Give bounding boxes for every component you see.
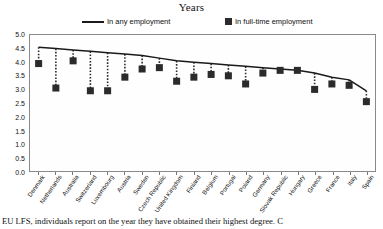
series-marker-full-time-employment xyxy=(104,87,111,94)
legend-label-full-time-employment: In full-time employment xyxy=(235,18,313,26)
series-marker-full-time-employment xyxy=(328,80,335,87)
y-axis-tick-label: 3.0 xyxy=(15,86,25,93)
y-axis-tick-label: 3.5 xyxy=(15,72,25,79)
y-axis-tick-label: 0.0 xyxy=(15,169,25,176)
series-marker-full-time-employment xyxy=(208,71,215,78)
series-marker-full-time-employment xyxy=(156,64,163,71)
legend-item-full-time-employment: In full-time employment xyxy=(225,16,313,27)
series-marker-full-time-employment xyxy=(346,82,353,89)
series-marker-full-time-employment xyxy=(242,80,249,87)
series-marker-full-time-employment xyxy=(190,74,197,81)
legend-label-any-employment: In any employment xyxy=(107,18,170,26)
chart-figure: Years In any employment In full-time emp… xyxy=(0,0,383,229)
x-axis-labels: DenmarkNetherlandsAustraliaSwitzerlandLu… xyxy=(29,174,376,214)
x-axis-category-label: Spain xyxy=(361,174,375,191)
y-axis-tick-label: 1.0 xyxy=(15,141,25,148)
series-marker-full-time-employment xyxy=(139,66,146,73)
y-axis-tick-label: 2.0 xyxy=(15,113,25,120)
series-marker-full-time-employment xyxy=(121,74,128,81)
figure-caption: EU LFS, individuals report on the year t… xyxy=(2,216,382,226)
series-marker-full-time-employment xyxy=(259,70,266,77)
series-marker-full-time-employment xyxy=(311,86,318,93)
series-marker-full-time-employment xyxy=(70,57,77,64)
x-axis-category-label: Austria xyxy=(116,174,132,193)
series-marker-full-time-employment xyxy=(35,60,42,67)
x-axis-category-label: Poland xyxy=(238,174,254,193)
y-axis-tick-label: 5.0 xyxy=(15,31,25,38)
chart-title: Years xyxy=(0,1,383,13)
x-axis-category-label: Italy xyxy=(346,174,358,187)
x-axis-category-label: France xyxy=(325,174,341,193)
series-marker-full-time-employment xyxy=(225,72,232,79)
x-axis-category-label: Belgium xyxy=(201,174,219,196)
series-marker-full-time-employment xyxy=(294,67,301,74)
series-line-any-employment xyxy=(39,47,367,91)
x-axis-category-label: Portugal xyxy=(218,174,236,196)
series-marker-full-time-employment xyxy=(87,87,94,94)
y-axis-labels: 5.04.54.03.53.02.52.01.51.00.50.0 xyxy=(0,34,27,172)
legend-item-any-employment: In any employment xyxy=(82,16,170,27)
y-axis-tick-label: 4.0 xyxy=(15,58,25,65)
y-axis-tick-label: 4.5 xyxy=(15,44,25,51)
y-axis-tick-label: 0.5 xyxy=(15,155,25,162)
plot-area xyxy=(29,34,376,172)
series-marker-full-time-employment xyxy=(173,78,180,85)
series-marker-full-time-employment xyxy=(363,98,370,105)
legend-line-icon xyxy=(82,21,104,23)
y-axis-tick-label: 2.5 xyxy=(15,100,25,107)
series-marker-full-time-employment xyxy=(52,85,59,92)
chart-legend: In any employment In full-time employmen… xyxy=(60,16,360,27)
x-axis-category-label: Greece xyxy=(307,174,324,194)
plot-svg xyxy=(30,35,375,171)
series-marker-full-time-employment xyxy=(277,67,284,74)
x-axis-category-label: Hungary xyxy=(288,174,306,197)
y-axis-tick-label: 1.5 xyxy=(15,127,25,134)
legend-square-icon xyxy=(225,18,232,25)
